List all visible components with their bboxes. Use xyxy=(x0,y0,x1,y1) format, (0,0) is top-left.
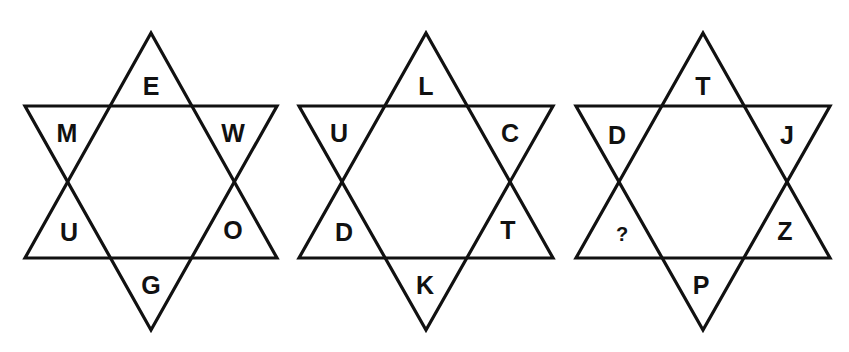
star-3-lower-right-letter: Z xyxy=(765,216,805,246)
star-3-upper-right-letter: J xyxy=(767,120,807,150)
star-3-bottom-letter: P xyxy=(681,270,721,300)
hexagram-icon xyxy=(0,0,849,352)
star-3-upper-left-letter: D xyxy=(597,120,637,150)
star-3-lower-left-unknown: ? xyxy=(602,219,642,249)
star-3-top-letter: T xyxy=(683,71,723,101)
star-3: T D J ? Z P xyxy=(0,0,849,352)
